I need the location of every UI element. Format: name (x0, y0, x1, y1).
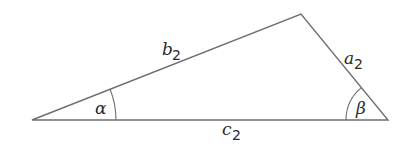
svg-text:c: c (222, 119, 232, 139)
side-a-label: a 2 (344, 48, 363, 72)
triangle-diagram: b 2 a 2 c 2 α β (0, 0, 407, 144)
angle-alpha-label: α (95, 98, 107, 118)
side-c-label: c 2 (222, 119, 241, 143)
svg-text:2: 2 (232, 127, 241, 143)
svg-text:2: 2 (172, 47, 181, 63)
side-b-label: b 2 (162, 39, 181, 63)
svg-text:2: 2 (354, 56, 363, 72)
angle-alpha-arc (110, 89, 116, 120)
angle-beta-label: β (355, 98, 366, 118)
triangle (32, 14, 388, 120)
svg-text:a: a (344, 48, 354, 68)
